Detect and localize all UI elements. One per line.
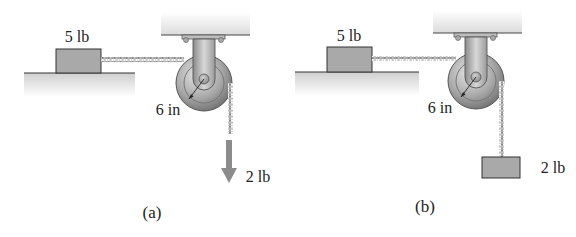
panel-caption: (b) <box>415 197 435 216</box>
force-arrow-down-icon <box>221 140 237 183</box>
ground-surface <box>24 73 135 97</box>
block-2lb <box>482 157 520 178</box>
ground-surface <box>295 72 419 96</box>
radius-label: 6 in <box>428 99 452 116</box>
block-5lb <box>56 49 101 73</box>
block-5lb <box>327 47 372 72</box>
hanging-load-label: 2 lb <box>541 159 565 176</box>
pulley-diagram: 5 lb 6 in 2 lb (a) 5 lb <box>0 0 576 237</box>
panel-caption: (a) <box>143 203 162 222</box>
hanging-load-label: 2 lb <box>246 168 270 185</box>
panel-b: 5 lb 6 in 2 lb (b) <box>295 10 565 216</box>
rope-vertical <box>499 81 504 157</box>
rope-vertical <box>228 83 233 134</box>
rope-horizontal <box>372 56 456 61</box>
radius-label: 6 in <box>156 101 180 118</box>
block-weight-label: 5 lb <box>65 28 89 45</box>
block-weight-label: 5 lb <box>337 27 361 44</box>
rope-horizontal <box>101 57 184 62</box>
panel-a: 5 lb 6 in 2 lb (a) <box>24 12 270 222</box>
